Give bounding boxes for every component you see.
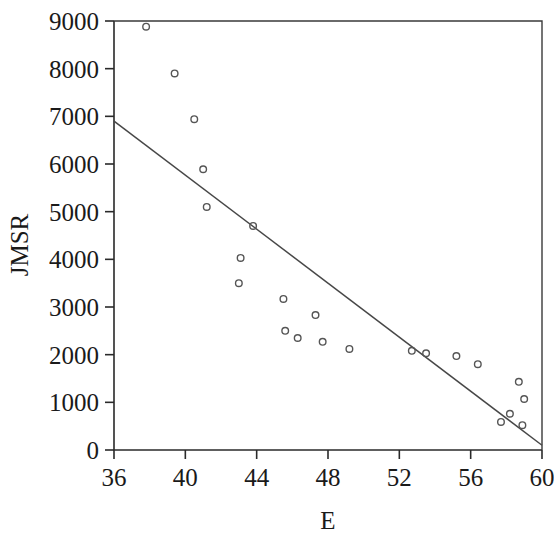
y-tick-label: 1000 [49, 389, 99, 416]
plot-border [114, 21, 542, 450]
data-point-marker [519, 422, 526, 429]
y-tick-label: 8000 [49, 56, 99, 83]
y-axis-title: JMSR [6, 213, 33, 276]
x-tick-label: 56 [458, 464, 483, 491]
plot-canvas: 0100020003000400050006000700080009000364… [0, 0, 554, 533]
x-tick-label: 44 [244, 464, 270, 491]
data-point-marker [236, 280, 243, 287]
data-point-marker [143, 23, 150, 30]
regression-line [114, 121, 542, 445]
data-point-marker [475, 361, 482, 368]
data-point-marker [191, 116, 198, 123]
y-tick-label: 6000 [49, 151, 99, 178]
y-tick-label: 3000 [49, 294, 99, 321]
data-point-marker [409, 348, 416, 355]
data-point-marker [203, 204, 210, 211]
data-point-marker [498, 419, 505, 426]
fit-line [114, 121, 542, 445]
data-point-marker [312, 312, 319, 319]
x-tick-label: 36 [102, 464, 127, 491]
y-tick-label: 2000 [49, 342, 99, 369]
data-point-marker [237, 255, 244, 262]
data-point-marker [282, 328, 289, 335]
data-point-marker [294, 335, 301, 342]
data-point-marker [346, 346, 353, 353]
y-tick-label: 0 [87, 437, 100, 464]
data-point-marker [423, 350, 430, 357]
x-tick-label: 48 [316, 464, 341, 491]
data-points [143, 23, 528, 428]
data-point-marker [200, 166, 207, 173]
data-point-marker [319, 338, 326, 345]
x-tick-label: 60 [530, 464, 554, 491]
scatter-plot-figure: 0100020003000400050006000700080009000364… [0, 0, 554, 533]
plot-frame [114, 21, 542, 450]
data-point-marker [280, 296, 287, 303]
data-point-marker [516, 379, 523, 386]
y-tick-label: 5000 [49, 199, 99, 226]
y-tick-label: 4000 [49, 246, 99, 273]
x-axis-title: E [320, 507, 335, 533]
data-point-marker [521, 396, 528, 403]
tick-labels: 0100020003000400050006000700080009000364… [49, 8, 554, 491]
y-tick-label: 9000 [49, 8, 99, 35]
data-point-marker [453, 353, 460, 360]
data-point-marker [171, 70, 178, 77]
y-tick-label: 7000 [49, 103, 99, 130]
x-tick-label: 40 [173, 464, 198, 491]
data-point-marker [507, 410, 514, 417]
axis-spines [114, 21, 542, 450]
tick-marks [105, 21, 542, 459]
x-tick-label: 52 [387, 464, 412, 491]
